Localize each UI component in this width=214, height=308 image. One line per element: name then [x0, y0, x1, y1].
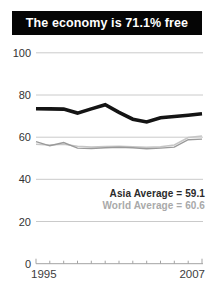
y-axis-tick-label: 100: [13, 47, 31, 59]
freedom-trend-line-chart: 100806040200: [0, 0, 214, 308]
x-axis-label-2007: 2007: [179, 268, 205, 280]
y-axis-tick-label: 40: [19, 173, 31, 185]
series-line-economic-freedom-score: [36, 105, 202, 122]
asia-average-legend: Asia Average = 59.1: [110, 188, 205, 199]
y-axis-tick-label: 20: [19, 216, 31, 228]
economic-freedom-panel: The economy is 71.1% free 100806040200 A…: [0, 0, 214, 308]
y-axis-tick-label: 60: [19, 131, 31, 143]
world-average-legend: World Average = 60.6: [102, 200, 205, 211]
y-axis-tick-label: 80: [19, 89, 31, 101]
x-axis-label-1995: 1995: [31, 268, 57, 280]
